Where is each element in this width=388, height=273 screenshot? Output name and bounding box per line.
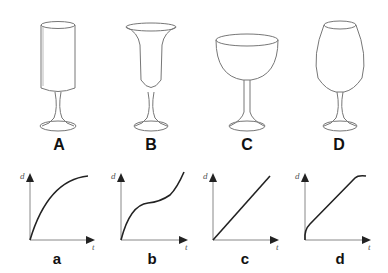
y-axis-label-a: d [20,171,25,181]
glass-b [126,23,176,131]
curve-d [305,176,366,240]
glass-label-c: C [232,136,262,154]
glass-label-b: B [136,136,166,154]
glass-a [40,22,76,132]
curve-b [121,172,184,240]
glass-d [316,21,364,131]
x-axis-label-c: t [276,242,279,252]
curve-a [30,176,88,240]
graph-label-d: d [325,250,355,267]
y-axis-label-c: d [203,171,208,181]
glass-label-a: A [44,136,74,154]
y-axis-label-b: d [111,171,116,181]
glass-c [216,34,278,131]
graph-label-a: a [42,250,72,267]
y-axis-label-d: d [295,171,300,181]
graph-label-c: c [230,250,260,267]
glass-label-d: D [324,136,354,154]
x-axis-label-d: t [368,242,371,252]
graph-label-b: b [137,250,167,267]
curve-c [213,176,270,240]
x-axis-label-b: t [185,242,188,252]
x-axis-label-a: t [92,242,95,252]
